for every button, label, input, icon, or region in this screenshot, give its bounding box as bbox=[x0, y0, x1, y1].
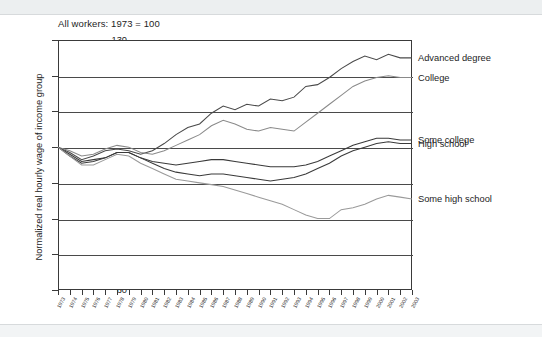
x-tick-mark-1980 bbox=[141, 290, 142, 295]
x-tick-mark-1977 bbox=[105, 290, 106, 295]
x-tick-mark-1987 bbox=[223, 290, 224, 295]
x-tick-label-1989: 1989 bbox=[244, 296, 255, 309]
top-divider bbox=[0, 14, 542, 15]
series-label-high-school: High school bbox=[418, 139, 467, 149]
x-tick-label-1996: 1996 bbox=[327, 296, 338, 309]
x-tick-mark-1999 bbox=[365, 290, 366, 295]
x-tick-label-1982: 1982 bbox=[162, 296, 173, 309]
x-tick-label-1990: 1990 bbox=[256, 296, 267, 309]
series-label-some-high-school: Some high school bbox=[418, 194, 492, 204]
x-tick-label-1974: 1974 bbox=[67, 296, 78, 309]
x-tick-label-2002: 2002 bbox=[398, 296, 409, 309]
x-tick-label-1992: 1992 bbox=[280, 296, 291, 309]
x-tick-label-1973: 1973 bbox=[56, 296, 67, 309]
x-tick-mark-1993 bbox=[294, 290, 295, 295]
top-band bbox=[0, 0, 542, 14]
x-tick-label-1986: 1986 bbox=[209, 296, 220, 309]
bottom-divider bbox=[0, 324, 542, 325]
chart-page: All workers: 1973 = 100 Normalized real … bbox=[0, 0, 542, 337]
x-tick-label-1995: 1995 bbox=[315, 296, 326, 309]
x-tick-mark-1982 bbox=[164, 290, 165, 295]
x-tick-mark-1994 bbox=[306, 290, 307, 295]
x-tick-mark-1979 bbox=[129, 290, 130, 295]
x-tick-label-2003: 2003 bbox=[410, 296, 421, 309]
x-tick-mark-1974 bbox=[70, 290, 71, 295]
x-tick-label-2000: 2000 bbox=[374, 296, 385, 309]
x-tick-label-1983: 1983 bbox=[174, 296, 185, 309]
x-tick-label-1993: 1993 bbox=[292, 296, 303, 309]
x-tick-label-1999: 1999 bbox=[362, 296, 373, 309]
x-tick-label-1975: 1975 bbox=[79, 296, 90, 309]
series-label-advanced-degree: Advanced degree bbox=[418, 53, 491, 63]
x-tick-mark-1998 bbox=[353, 290, 354, 295]
x-tick-label-1994: 1994 bbox=[303, 296, 314, 309]
x-tick-mark-2000 bbox=[377, 290, 378, 295]
x-tick-mark-1975 bbox=[82, 290, 83, 295]
x-tick-mark-2002 bbox=[400, 290, 401, 295]
x-tick-label-1979: 1979 bbox=[126, 296, 137, 309]
x-tick-label-2001: 2001 bbox=[386, 296, 397, 309]
x-tick-mark-1995 bbox=[318, 290, 319, 295]
bottom-band bbox=[0, 324, 542, 337]
series-line-some-high-school bbox=[58, 147, 412, 218]
x-tick-mark-1990 bbox=[259, 290, 260, 295]
x-tick-mark-1997 bbox=[341, 290, 342, 295]
x-tick-label-1998: 1998 bbox=[351, 296, 362, 309]
x-tick-mark-1988 bbox=[235, 290, 236, 295]
x-tick-label-1984: 1984 bbox=[185, 296, 196, 309]
x-tick-mark-1984 bbox=[188, 290, 189, 295]
x-tick-mark-1983 bbox=[176, 290, 177, 295]
series-lines bbox=[58, 40, 412, 290]
x-tick-mark-2001 bbox=[388, 290, 389, 295]
chart-title: All workers: 1973 = 100 bbox=[58, 18, 160, 29]
x-tick-label-1980: 1980 bbox=[138, 296, 149, 309]
x-tick-mark-1978 bbox=[117, 290, 118, 295]
x-tick-mark-1996 bbox=[329, 290, 330, 295]
x-tick-mark-1973 bbox=[58, 290, 59, 295]
x-tick-label-1997: 1997 bbox=[339, 296, 350, 309]
x-tick-mark-2003 bbox=[412, 290, 413, 295]
x-tick-label-1977: 1977 bbox=[103, 296, 114, 309]
x-tick-mark-1986 bbox=[211, 290, 212, 295]
x-tick-label-1987: 1987 bbox=[221, 296, 232, 309]
x-tick-label-1976: 1976 bbox=[91, 296, 102, 309]
x-tick-label-1978: 1978 bbox=[115, 296, 126, 309]
x-tick-label-1985: 1985 bbox=[197, 296, 208, 309]
x-tick-mark-1976 bbox=[93, 290, 94, 295]
x-tick-mark-1985 bbox=[200, 290, 201, 295]
x-tick-label-1988: 1988 bbox=[233, 296, 244, 309]
x-tick-mark-1989 bbox=[247, 290, 248, 295]
x-tick-label-1981: 1981 bbox=[150, 296, 161, 309]
y-axis-label: Normalized real hourly wage of income gr… bbox=[34, 42, 44, 292]
x-tick-mark-1991 bbox=[270, 290, 271, 295]
x-tick-mark-1992 bbox=[282, 290, 283, 295]
x-tick-label-1991: 1991 bbox=[268, 296, 279, 309]
series-label-college: College bbox=[418, 73, 450, 83]
x-tick-mark-1981 bbox=[152, 290, 153, 295]
series-line-some-college bbox=[58, 138, 412, 167]
